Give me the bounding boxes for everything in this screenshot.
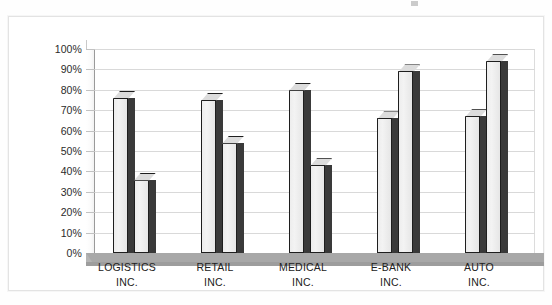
category-label: E-BANKINC. [371,260,411,290]
bar-front-face [377,118,392,253]
bar-side-shading [413,71,420,253]
y-axis-tick [86,212,95,213]
bar-group [447,49,535,253]
bar-2 [310,165,325,253]
bar-front-face [113,98,128,253]
bar-side-shading [149,180,156,253]
y-axis-tick-label: 70% [61,104,82,116]
bar-side-shading [325,165,332,253]
y-axis-tick-label: 50% [61,145,82,157]
bar-front-face [222,143,237,253]
bar-1 [113,98,128,253]
y-axis-tick [86,151,95,152]
bar-2 [134,180,149,253]
y-axis-tick-label: 60% [61,125,82,137]
bar-front-face [134,180,149,253]
y-axis-tick-label: 90% [61,63,82,75]
bar-2 [398,71,413,253]
y-axis-tick [86,49,95,50]
category-label: RETAILINC. [196,260,233,290]
category-label: AUTOINC. [464,260,494,290]
bar-front-face [465,116,480,253]
y-axis-tick [86,90,95,91]
bar-1 [465,116,480,253]
chart-screenshot: 0%10%20%30%40%50%60%70%80%90%100% LOGIST… [0,0,552,305]
bar-group [95,49,183,253]
bar-group [359,49,447,253]
bar-front-face [289,90,304,253]
y-axis-tick-label: 20% [61,206,82,218]
plot-area: 0%10%20%30%40%50%60%70%80%90%100% [95,49,535,253]
bar-2 [222,143,237,253]
category-label: LOGISTICSINC. [98,260,156,290]
y-axis-tick [86,192,95,193]
y-axis-tick [86,69,95,70]
category-label: MEDICALINC. [279,260,327,290]
y-axis-tick [86,233,95,234]
bar-1 [201,100,216,253]
y-axis-tick [86,171,95,172]
bar-side-shading [237,143,244,253]
value-axis-cap [86,40,96,49]
y-axis-tick-label: 100% [55,43,82,55]
bar-front-face [310,165,325,253]
y-axis-tick-label: 10% [61,227,82,239]
bar-2 [486,61,501,253]
bar-1 [377,118,392,253]
chart-frame: 0%10%20%30%40%50%60%70%80%90%100% LOGIST… [8,16,544,291]
y-axis-tick-label: 80% [61,84,82,96]
bar-group [183,49,271,253]
bar-front-face [486,61,501,253]
bar-group [271,49,359,253]
bar-side-shading [501,61,508,253]
bar-front-face [398,71,413,253]
bar-front-face [201,100,216,253]
y-axis-tick-label: 30% [61,186,82,198]
y-axis-tick [86,131,95,132]
y-axis-tick-label: 40% [61,165,82,177]
y-axis-tick [86,110,95,111]
y-axis-tick-label: 0% [67,247,82,259]
bar-series-container [95,49,535,253]
category-axis-labels: LOGISTICSINC.RETAILINC.MEDICALINC.E-BANK… [95,260,535,304]
bar-1 [289,90,304,253]
scan-artifact [411,1,418,6]
